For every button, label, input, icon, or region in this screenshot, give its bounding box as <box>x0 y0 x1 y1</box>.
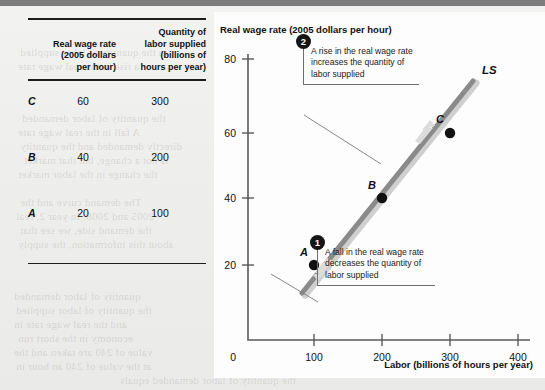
table-header-wage: Real wage rate (2005 dollars per hour) <box>28 39 120 74</box>
data-point-b <box>377 193 387 203</box>
table-header-quantity: Quantity of labor supplied (billions of … <box>120 27 206 73</box>
callout-2-text: A rise in the real wage rate increases t… <box>311 46 413 79</box>
callout-1: 1 A fall in the real wage rate decreases… <box>317 244 435 286</box>
table-row: C 60 300 <box>28 81 206 151</box>
table-cell-quantity: 100 <box>114 207 206 219</box>
callout-1-badge: 1 <box>310 235 325 250</box>
table-cell-point: B <box>28 151 52 163</box>
table-cell-wage: 40 <box>52 151 114 163</box>
labor-supply-chart: Real wage rate (2005 dollars per hour) 8… <box>214 12 545 378</box>
y-tick-label-0: 0 <box>230 351 236 363</box>
callout-2-badge: 2 <box>296 34 311 49</box>
table-header-row: Real wage rate (2005 dollars per hour) Q… <box>28 20 206 79</box>
data-point-b-label: B <box>368 179 376 191</box>
ghost-text-line: the quantity of labor supplied <box>16 304 152 316</box>
callout-2: 2 A rise in the real wage rate increases… <box>303 43 419 85</box>
table-cell-wage: 20 <box>52 207 114 219</box>
ghost-text-line: value of 240 are taken and the <box>14 346 153 358</box>
table-cell-wage: 60 <box>52 95 114 107</box>
axis-lines <box>248 54 530 340</box>
table-header-wage-line3: per hour) <box>28 62 116 74</box>
ghost-text-line: at the value of 240 an hour in <box>16 360 151 372</box>
callout-2-leader-line <box>304 115 381 164</box>
table-row: B 40 200 <box>28 151 206 207</box>
data-point-a-label: A <box>299 246 308 258</box>
page-background: in the quantity of labor supplied a rise… <box>0 0 545 390</box>
table-cell-quantity: 200 <box>114 151 206 163</box>
table-cell-quantity: 300 <box>114 95 206 107</box>
y-tick-label-20: 20 <box>224 259 236 271</box>
data-point-c-label: C <box>436 113 445 125</box>
ghost-text-line: quantity of labor demanded <box>14 290 140 302</box>
table-header-wage-line2: (2005 dollars <box>28 50 116 62</box>
curve-label-ls: LS <box>482 64 497 76</box>
table-cell-point: C <box>28 95 52 107</box>
ghost-text-line: economy in the short run <box>18 332 133 344</box>
table-header-wage-line1: Real wage rate <box>28 39 116 51</box>
y-tick-label-40: 40 <box>224 192 236 204</box>
table-header-quantity-line2: labor supplied <box>120 39 206 51</box>
table-header-quantity-line3: (billions of <box>120 50 206 62</box>
table-row: A 20 100 <box>28 207 206 263</box>
table-bottom-rule <box>28 263 206 265</box>
page-top-edge-bar <box>0 0 545 6</box>
supply-schedule-table: Real wage rate (2005 dollars per hour) Q… <box>28 18 206 264</box>
table-cell-point: A <box>28 207 52 219</box>
table-header-quantity-line4: hours per year) <box>120 62 206 74</box>
y-tick-label-60: 60 <box>224 127 236 139</box>
ghost-text-line: and the real wage rate in <box>14 318 127 330</box>
table-header-quantity-line1: Quantity of <box>120 27 206 39</box>
x-axis-title: Labor (billions of hours per year) <box>384 359 533 370</box>
y-tick-label-80: 80 <box>224 53 236 65</box>
x-tick-label-100: 100 <box>305 351 323 363</box>
data-point-c <box>445 128 455 138</box>
callout-1-text: A fall in the real wage rate decreases t… <box>325 247 424 280</box>
